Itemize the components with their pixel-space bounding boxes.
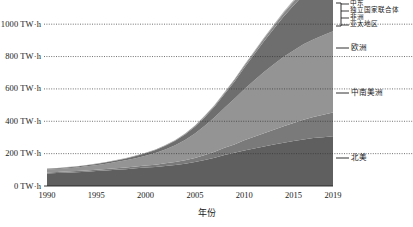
chart-figure: 0 TW·h200 TW·h400 TW·h600 TW·h800 TW·h10… [0,0,413,227]
x-axis-tick-label: 2010 [224,190,264,200]
x-axis-tick-label: 1995 [76,190,116,200]
area-series-group [47,0,333,186]
x-axis-tick-label: 2000 [126,190,166,200]
x-axis-title: 年份 [0,206,413,219]
x-axis-tick-label: 2015 [274,190,314,200]
legend-label-3: 亚太地区 [350,21,378,28]
series-label-0: 欧洲 [351,44,367,52]
y-axis-tick-label: 0 TW·h [14,181,41,191]
y-axis-tick-label: 600 TW·h [5,83,41,93]
x-axis-tick-label: 2005 [175,190,215,200]
series-label-1: 中南美洲 [351,89,383,97]
y-axis-tick-label: 200 TW·h [5,148,41,158]
y-axis-tick-label: 800 TW·h [5,51,41,61]
x-axis-tick-label: 1990 [27,190,67,200]
y-axis-tick-label: 1000 TW·h [1,19,41,29]
y-axis-tick-label: 400 TW·h [5,116,41,126]
leader-lines-group [336,3,349,158]
x-axis-tick-label: 2019 [313,190,353,200]
legend-bracket [336,3,341,26]
series-label-2: 北美 [351,154,367,162]
